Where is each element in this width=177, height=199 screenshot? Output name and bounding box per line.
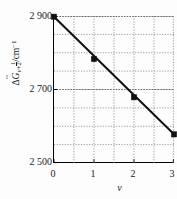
x-tick-label-2: 2 xyxy=(123,168,143,179)
y-axis-title-text: ΔGv+12/cm−1 xyxy=(11,41,21,86)
x-axis-title-text: v xyxy=(55,182,121,193)
data-point-marker xyxy=(91,56,96,61)
data-point-marker xyxy=(171,132,176,137)
fit-line xyxy=(54,17,174,135)
y-tick-label-2900: 2 900 xyxy=(8,11,52,21)
plot-area xyxy=(53,16,173,163)
x-tick-label-1: 1 xyxy=(83,168,103,179)
data-point-marker xyxy=(131,95,136,100)
y-tick-label-2700: 2 700 xyxy=(8,84,52,94)
x-tick-label-3: 3 xyxy=(162,168,177,179)
y-axis-title: ΔGv+12/cm−1 xyxy=(7,13,21,113)
data-point-marker xyxy=(51,14,56,19)
y-tick-label-2500: 2 500 xyxy=(8,157,52,167)
chart-figure: ΔGv+12/cm−1 2 900 2 700 2 500 xyxy=(0,0,177,199)
x-axis-title: v xyxy=(0,182,177,193)
data-series xyxy=(54,16,174,163)
x-tick-label-0: 0 xyxy=(43,168,63,179)
